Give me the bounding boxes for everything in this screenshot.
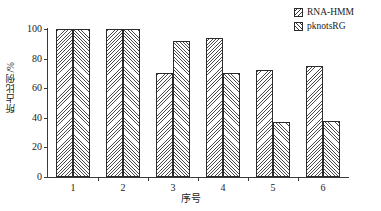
bar-6-series-0 (306, 66, 323, 177)
x-axis-tick-mark (148, 177, 149, 181)
x-axis-tick-mark (98, 177, 99, 181)
bar-1-series-0 (56, 29, 73, 177)
y-axis-tick-label: 80 (32, 53, 42, 64)
bar-5-series-0 (256, 70, 273, 177)
plot-area (48, 29, 348, 177)
bar-3-series-0 (156, 73, 173, 177)
y-axis-tick-label: 0 (37, 171, 42, 182)
x-axis-tick-label-4: 4 (211, 182, 235, 193)
y-axis-tick-mark (44, 118, 48, 119)
y-axis-tick-mark (44, 177, 48, 178)
y-axis-tick-mark (44, 59, 48, 60)
x-axis-title: 序号 (0, 193, 381, 204)
y-axis-tick-mark (44, 29, 48, 30)
bar-3-series-1 (173, 41, 190, 177)
x-axis-tick-label-2: 2 (111, 182, 135, 193)
y-axis-tick-label: 60 (32, 82, 42, 93)
y-axis-tick-label: 100 (27, 23, 42, 34)
bar-2-series-0 (106, 29, 123, 177)
x-axis-tick-label-5: 5 (261, 182, 285, 193)
legend-item-rna-hmm: RNA-HMM (294, 6, 354, 18)
bar-1-series-1 (73, 29, 90, 177)
x-axis-tick-mark (198, 177, 199, 181)
y-axis-title: 所占比例/% (6, 62, 19, 113)
y-axis-tick-label: 40 (32, 112, 42, 123)
bar-5-series-1 (273, 122, 290, 177)
y-axis-tick-mark (44, 147, 48, 148)
bar-4-series-0 (206, 38, 223, 177)
y-axis-tick-label: 20 (32, 141, 42, 152)
x-axis-tick-label-6: 6 (311, 182, 335, 193)
bar-2-series-1 (123, 29, 140, 177)
legend-swatch-icon-series-0 (294, 8, 303, 17)
x-axis-tick-mark (298, 177, 299, 181)
bar-6-series-1 (323, 121, 340, 177)
x-axis-tick-label-3: 3 (161, 182, 185, 193)
legend-label-series-0: RNA-HMM (307, 7, 354, 17)
bar-4-series-1 (223, 73, 240, 177)
y-axis-tick-mark (44, 88, 48, 89)
x-axis-tick-label-1: 1 (61, 182, 85, 193)
x-axis-tick-mark (248, 177, 249, 181)
bar-chart: RNA-HMM pknotsRG 所占比例/% 序号 0204060801001… (0, 0, 381, 211)
